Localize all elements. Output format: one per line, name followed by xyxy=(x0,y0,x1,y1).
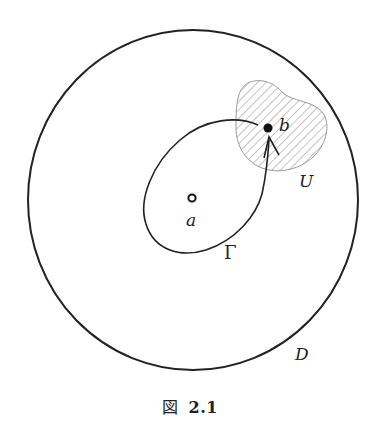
label-u: U xyxy=(299,171,314,191)
domain-d-boundary xyxy=(28,30,358,370)
figure-caption: 図2.1 xyxy=(0,394,380,418)
figure-2-1: b a Γ U D 図2.1 xyxy=(0,0,380,434)
label-d: D xyxy=(294,344,309,364)
label-gamma: Γ xyxy=(224,242,237,263)
caption-number: 2.1 xyxy=(189,398,218,417)
caption-prefix: 図 xyxy=(162,398,179,417)
label-a: a xyxy=(186,210,196,230)
label-b: b xyxy=(279,115,290,135)
point-b xyxy=(264,124,273,133)
point-a xyxy=(188,194,195,201)
